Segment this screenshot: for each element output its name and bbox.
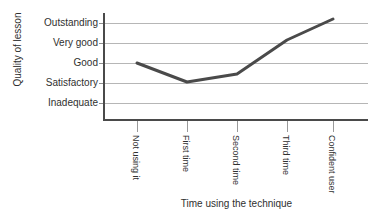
x-axis-tick-group: Not using it First time Second time Thir… [0, 0, 378, 222]
x-tick-label-first-time: First time [181, 135, 191, 172]
x-tick-label-second-time: Second time [231, 135, 241, 185]
x-tick-mark-third-time [287, 121, 288, 132]
x-tick-label-confident-user: Confident user [327, 135, 337, 194]
x-tick-mark-second-time [237, 121, 238, 132]
chart-container: Quality of lesson Outstanding Very good … [0, 0, 378, 222]
x-tick-mark-confident-user [333, 121, 334, 132]
x-tick-label-not-using-it: Not using it [131, 135, 141, 180]
x-tick-mark-first-time [187, 121, 188, 132]
x-tick-mark-not-using-it [137, 121, 138, 132]
x-tick-label-third-time: Third time [281, 135, 291, 175]
x-axis-title: Time using the technique [105, 198, 368, 210]
